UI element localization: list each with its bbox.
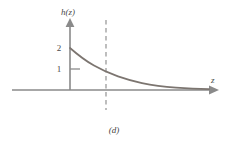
exponential-decay-curve [70,48,209,89]
plot-svg: h(z) z 2 1 (d) [0,0,229,144]
y-axis-arrow-icon [66,18,75,27]
x-axis-arrow-icon [209,86,219,95]
figure-caption: (d) [109,125,120,135]
y-tick-label-one: 1 [57,64,62,74]
x-axis-label: z [210,75,215,85]
y-axis-label: h(z) [61,7,75,17]
figure-container: h(z) z 2 1 (d) [0,0,229,144]
y-tick-label-two: 2 [57,43,62,53]
